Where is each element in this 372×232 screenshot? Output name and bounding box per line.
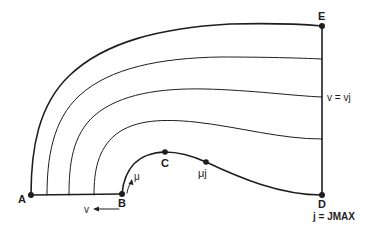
label-D: D	[318, 198, 326, 210]
label-v-arrow: v	[84, 204, 89, 215]
point-mu-j	[203, 159, 209, 165]
bottom-boundary-line	[31, 194, 122, 195]
label-j-equals-jmax: j = JMAX	[312, 211, 355, 222]
label-E: E	[318, 10, 325, 22]
label-C: C	[161, 157, 169, 169]
grid-line-2	[69, 89, 322, 195]
point-C	[162, 149, 168, 155]
label-B: B	[118, 197, 126, 209]
grid-line-3	[94, 120, 322, 195]
label-mu-arrow: μ	[134, 171, 140, 182]
body-surface-curve	[122, 152, 322, 195]
label-v-equals-vj: v = vj	[327, 92, 351, 103]
outer-boundary-curve	[31, 24, 322, 195]
point-A	[28, 192, 34, 198]
mu-arrow-head	[129, 179, 134, 185]
label-A: A	[18, 193, 26, 205]
grid-diagram: A B C μj D E v = vj j = JMAX μ v	[0, 0, 372, 232]
point-E	[319, 23, 325, 29]
grid-line-1	[47, 57, 322, 195]
v-arrow-head	[93, 207, 99, 212]
label-mu-j: μj	[198, 167, 207, 179]
